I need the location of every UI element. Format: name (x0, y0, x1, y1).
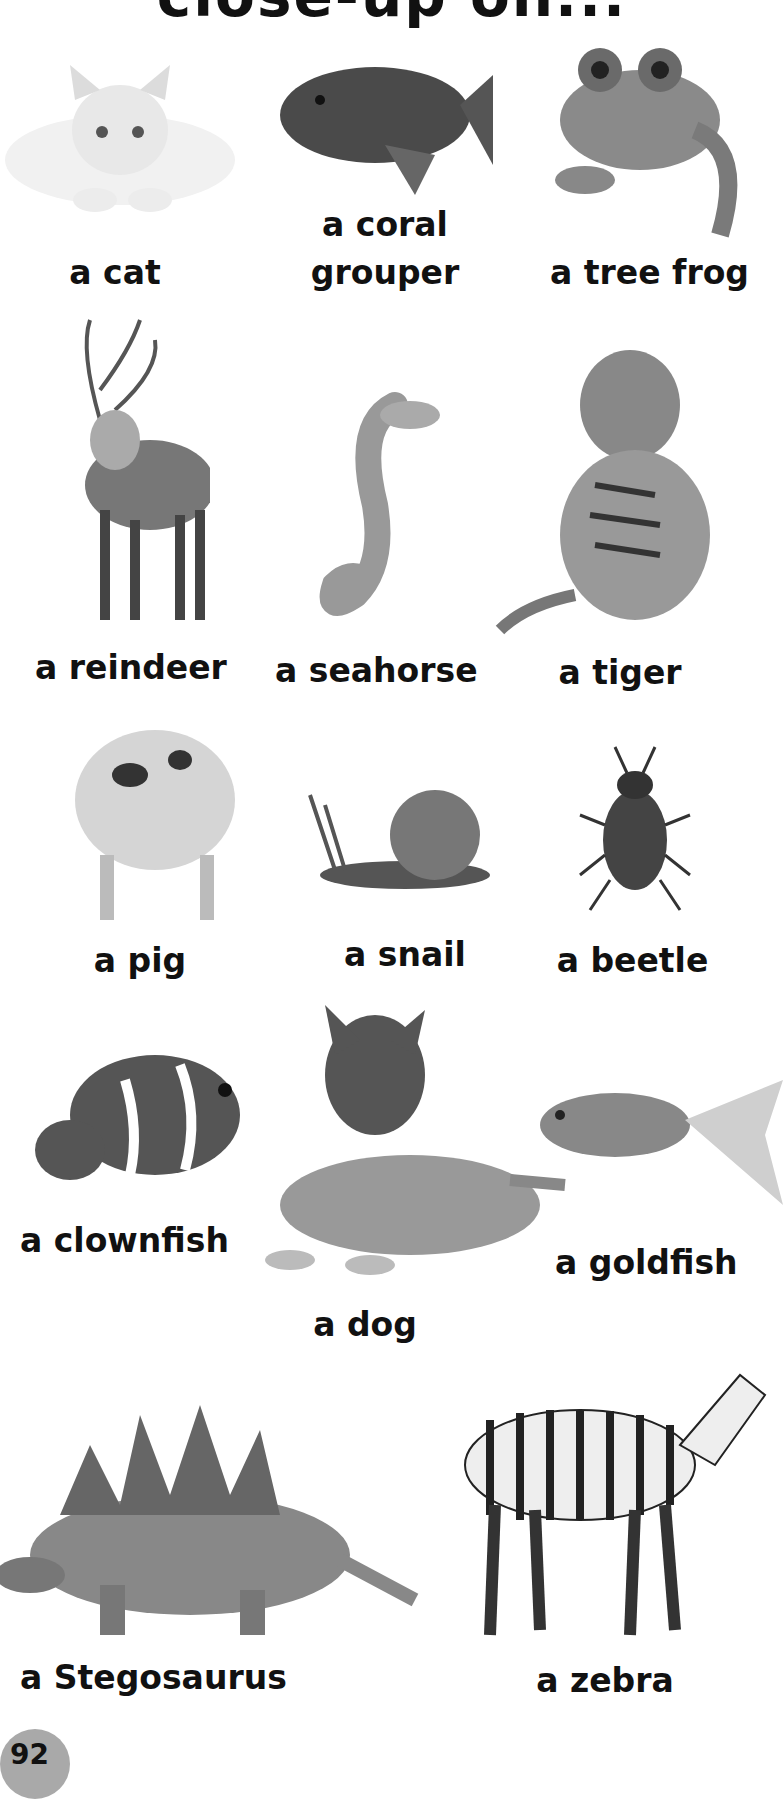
pig-label: a pig (85, 938, 195, 984)
tree-frog-image (545, 40, 755, 240)
tiger-image (495, 345, 725, 635)
cat-label: a cat (40, 250, 190, 296)
goldfish-image (535, 1075, 784, 1215)
goldfish-label: a goldfish (555, 1240, 725, 1286)
clownfish-image (35, 1040, 255, 1195)
dog-image (260, 1005, 570, 1275)
snail-label: a snail (340, 932, 470, 978)
snail-image (295, 775, 490, 895)
stegosaurus-label: a Stegosaurus (20, 1655, 275, 1701)
clownfish-label: a clownfish (20, 1218, 215, 1264)
tree-frog-label: a tree frog (550, 250, 740, 296)
page-number: 92 (10, 1738, 49, 1771)
pig-image (70, 715, 250, 925)
tiger-label: a tiger (555, 650, 685, 696)
coral-grouper-image (265, 45, 495, 205)
coral-grouper-label-line1: a coral (300, 202, 470, 248)
reindeer-label: a reindeer (35, 645, 220, 691)
cat-image (0, 40, 240, 220)
beetle-image (575, 745, 695, 915)
reindeer-image (60, 310, 210, 630)
seahorse-image (295, 385, 445, 625)
stegosaurus-image (0, 1385, 420, 1645)
zebra-label: a zebra (530, 1658, 680, 1704)
beetle-label: a beetle (555, 938, 710, 984)
coral-grouper-label-line2: grouper (300, 250, 470, 296)
zebra-image (440, 1355, 780, 1645)
seahorse-label: a seahorse (275, 648, 475, 694)
page-number-badge: 92 (0, 1729, 70, 1799)
dog-label: a dog (300, 1302, 430, 1348)
page-title: close-up on... (0, 0, 784, 30)
